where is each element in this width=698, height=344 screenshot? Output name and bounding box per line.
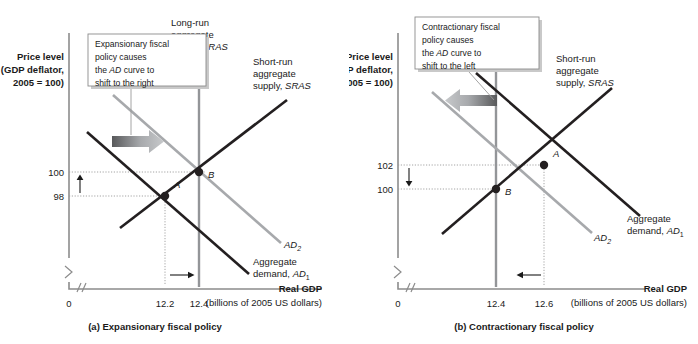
y-axis-title-a: Price level (GDP deflator, 2005 = 100)	[1, 51, 64, 88]
point-label-b: B	[208, 169, 215, 180]
y-axis-title-line1: Price level	[17, 51, 64, 62]
x-tick-126-b: 12.6	[535, 298, 554, 309]
equilibrium-point-a	[540, 161, 548, 169]
sras-label-line1: Short-run	[556, 53, 596, 64]
y-tick-98-a: 98	[53, 191, 64, 202]
x-tick-122-a: 12.2	[156, 298, 175, 309]
ad1-label-line2: demand, AD1	[253, 268, 310, 281]
x-axis-title-a: Real GDP	[279, 283, 323, 294]
point-label-a: A	[552, 148, 559, 159]
y-axis-title-line3: 2005 = 100)	[349, 77, 393, 88]
x-axis-subtitle-a: (billions of 2005 US dollars)	[206, 297, 322, 308]
y-axis-title-line2: (GDP deflator,	[1, 64, 64, 75]
y-axis-title-line1: Price level	[349, 51, 393, 62]
callout-line2: policy causes	[95, 52, 147, 62]
ad1-label-line2: demand, AD1	[627, 225, 684, 238]
y-axis-title-line2: (GDP deflator,	[349, 64, 393, 75]
sras-label-line2: aggregate	[556, 65, 599, 76]
x-tick-124-b: 12.4	[487, 298, 506, 309]
panel-caption-a: (a) Expansionary fiscal policy	[88, 321, 222, 332]
callout-line1: Expansionary fiscal	[95, 39, 169, 49]
panel-caption-b: (b) Contractionary fiscal policy	[454, 321, 594, 332]
x-axis-title-b: Real GDP	[644, 283, 688, 294]
callout-line1: Contractionary fiscal	[422, 22, 500, 32]
sras-label-a: Short-run aggregate supply, SRAS	[253, 56, 312, 91]
x-axis-break-b	[406, 283, 415, 292]
x-axis-subtitle-b: (billions of 2005 US dollars)	[571, 297, 687, 308]
x-axis-b	[398, 282, 645, 289]
y-tick-100-b: 100	[377, 184, 393, 195]
ad2-label-b: AD2	[593, 232, 611, 245]
lras-label-line1: Long-run	[171, 17, 209, 28]
sras-label-line3: supply, SRAS	[253, 80, 312, 91]
ad1-curve-a	[87, 132, 249, 274]
callout-contractionary: Contractionary fiscal policy causes the …	[415, 17, 542, 72]
y-tick-102-b: 102	[377, 160, 393, 171]
callout-line2: policy causes	[422, 35, 474, 45]
y-axis-title-line3: 2005 = 100)	[13, 77, 64, 88]
callout-expansionary: Expansionary fiscal policy causes the AD…	[88, 34, 209, 89]
real-gdp-rise-arrow	[170, 272, 195, 278]
callout-line3: the AD curve to	[422, 48, 481, 58]
sras-curve-a	[120, 100, 287, 228]
callout-line4: shift to the right	[95, 78, 154, 88]
equilibrium-point-a	[161, 192, 169, 200]
point-label-b: B	[505, 186, 512, 197]
ad1-label-a: Aggregate demand, AD1	[253, 256, 310, 281]
x-axis-break-a	[77, 283, 86, 292]
ad-shift-arrow-left	[445, 89, 497, 112]
sras-label-line1: Short-run	[253, 56, 293, 67]
y-axis-break-b	[394, 266, 401, 278]
sras-label-line3: supply, SRAS	[556, 77, 615, 88]
ad1-label-line1: Aggregate	[627, 213, 671, 224]
callout-line3: the AD curve to	[95, 65, 154, 75]
sras-label-b: Short-run aggregate supply, SRAS	[556, 53, 615, 88]
y-axis-break-a	[65, 266, 72, 278]
price-level-rise-arrow	[77, 175, 84, 194]
point-label-a: A	[173, 179, 180, 190]
panel-expansionary-fiscal-policy: A B Price level (GDP deflator, 2005 = 10…	[0, 0, 349, 344]
real-gdp-fall-arrow	[517, 272, 542, 278]
ad1-label-b: Aggregate demand, AD1	[627, 213, 684, 238]
ad1-label-line1: Aggregate	[253, 256, 297, 267]
panel-contractionary-fiscal-policy: A B Price level (GDP deflator, 2005 = 10…	[349, 0, 698, 344]
equilibrium-point-b	[195, 168, 203, 176]
origin-label-a: 0	[66, 298, 71, 309]
ad1-curve-b	[476, 73, 640, 216]
origin-label-b: 0	[395, 298, 400, 309]
ad2-label-a: AD2	[283, 239, 301, 252]
ad2-curve-b	[432, 92, 592, 233]
price-level-fall-arrow	[406, 168, 413, 187]
y-tick-100-a: 100	[48, 167, 64, 178]
sras-curve-b	[442, 88, 612, 234]
callout-line4: shift to the left	[422, 61, 476, 71]
y-axis-title-b: Price level (GDP deflator, 2005 = 100)	[349, 51, 393, 88]
sras-label-line2: aggregate	[253, 68, 296, 79]
equilibrium-point-b	[492, 185, 500, 193]
fiscal-policy-figure: A B Price level (GDP deflator, 2005 = 10…	[0, 0, 698, 344]
